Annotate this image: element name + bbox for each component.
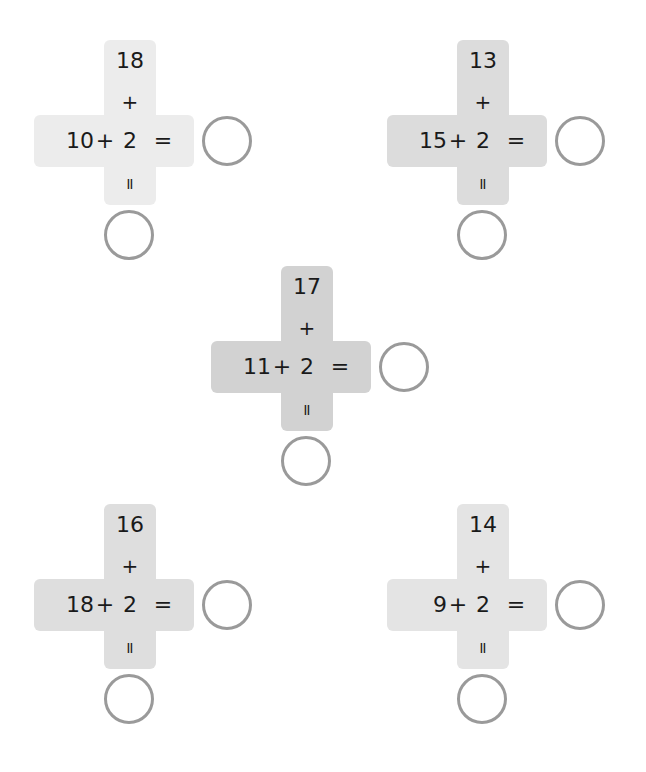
answer-circle-bottom[interactable] xyxy=(457,210,507,260)
vertical-equals-sign: = xyxy=(122,158,138,210)
middle-number: 2 xyxy=(114,130,146,152)
vertical-plus-sign: + xyxy=(281,318,333,338)
top-number: 16 xyxy=(104,514,156,536)
answer-circle-bottom[interactable] xyxy=(104,210,154,260)
cross-puzzle: 13 + = 15 + 2 = xyxy=(387,30,646,270)
vertical-equals-sign: = xyxy=(475,158,491,210)
answer-circle-bottom[interactable] xyxy=(281,436,331,486)
answer-circle-right[interactable] xyxy=(379,342,429,392)
cross-puzzle: 18 + = 10 + 2 = xyxy=(34,30,294,270)
top-number: 17 xyxy=(281,276,333,298)
top-number: 13 xyxy=(457,50,509,72)
middle-number: 2 xyxy=(467,130,499,152)
left-number: 9 xyxy=(387,594,447,616)
answer-circle-right[interactable] xyxy=(555,580,605,630)
answer-circle-right[interactable] xyxy=(202,116,252,166)
horizontal-equals-sign: = xyxy=(499,594,533,616)
vertical-plus-sign: + xyxy=(104,556,156,576)
left-number: 18 xyxy=(34,594,94,616)
top-number: 18 xyxy=(104,50,156,72)
cross-puzzle: 17 + = 11 + 2 = xyxy=(211,256,471,496)
left-number: 10 xyxy=(34,130,94,152)
vertical-plus-sign: + xyxy=(457,556,509,576)
top-number: 14 xyxy=(457,514,509,536)
vertical-equals-sign: = xyxy=(299,384,315,436)
horizontal-equals-sign: = xyxy=(146,130,180,152)
vertical-equals-sign: = xyxy=(475,622,491,674)
horizontal-equals-sign: = xyxy=(323,356,357,378)
vertical-plus-sign: + xyxy=(457,92,509,112)
vertical-equals-sign: = xyxy=(122,622,138,674)
cross-puzzle: 16 + = 18 + 2 = xyxy=(34,494,294,734)
cross-puzzle: 14 + = 9 + 2 = xyxy=(387,494,646,734)
vertical-plus-sign: + xyxy=(104,92,156,112)
middle-number: 2 xyxy=(114,594,146,616)
middle-number: 2 xyxy=(291,356,323,378)
left-number: 11 xyxy=(211,356,271,378)
horizontal-equals-sign: = xyxy=(499,130,533,152)
answer-circle-bottom[interactable] xyxy=(104,674,154,724)
answer-circle-bottom[interactable] xyxy=(457,674,507,724)
left-number: 15 xyxy=(387,130,447,152)
answer-circle-right[interactable] xyxy=(202,580,252,630)
horizontal-equals-sign: = xyxy=(146,594,180,616)
middle-number: 2 xyxy=(467,594,499,616)
answer-circle-right[interactable] xyxy=(555,116,605,166)
